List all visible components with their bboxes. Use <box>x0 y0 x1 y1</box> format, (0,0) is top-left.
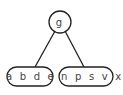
root-node: g <box>49 11 71 33</box>
root-node-label: g <box>56 17 65 28</box>
left-child-node: a b d e <box>6 67 56 86</box>
edge-root-right <box>65 31 84 67</box>
edge-root-left <box>35 31 55 67</box>
right-child-node: j n p s v x <box>50 67 123 86</box>
right-child-label: j n p s v x <box>50 71 123 82</box>
left-child-label: a b d e <box>6 71 56 82</box>
btree-diagram: g a b d e j n p s v x <box>0 0 123 95</box>
